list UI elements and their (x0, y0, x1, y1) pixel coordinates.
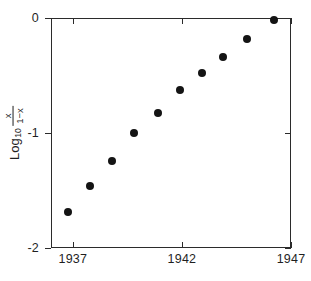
y-axis-label-log-text: Log (7, 138, 22, 160)
x-axis-tick-top (73, 18, 74, 24)
fraction-denominator: 1−x (15, 106, 25, 126)
x-axis-tick (291, 242, 292, 248)
x-axis-tick-label: 1937 (59, 252, 88, 266)
x-axis-tick-label: 1942 (168, 252, 197, 266)
y-axis-tick-label: -2 (27, 241, 39, 255)
x-axis-tick-top (291, 18, 292, 24)
y-axis-tick-label: -1 (27, 126, 39, 140)
x-axis-tick (73, 242, 74, 248)
y-axis-tick-right (285, 248, 291, 249)
y-axis-label-log: Log10 (7, 129, 22, 160)
y-axis-tick (45, 133, 51, 134)
x-axis-tick (182, 242, 183, 248)
y-axis-label-fraction: x 1−x (2, 106, 25, 126)
y-axis-tick-right (285, 133, 291, 134)
y-axis-label: Log10 x 1−x (3, 106, 26, 160)
plot-frame (51, 18, 291, 248)
chart-figure: 1937194219470-1-2 Log10 x 1−x (0, 0, 311, 281)
y-axis-label-subscript: 10 (13, 128, 23, 137)
y-axis-tick (45, 18, 51, 19)
y-axis-tick-right (285, 18, 291, 19)
y-axis-tick (45, 248, 51, 249)
x-axis-tick-top (182, 18, 183, 24)
fraction-numerator: x (2, 112, 12, 121)
y-axis-tick-label: 0 (32, 11, 39, 25)
x-axis-tick-label: 1947 (277, 252, 306, 266)
